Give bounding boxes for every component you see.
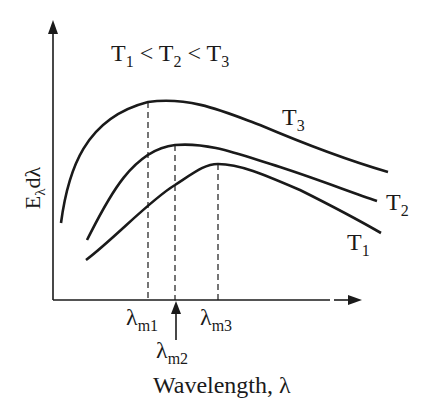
lambda-m2-arrow-icon: [171, 301, 181, 314]
x-axis-label: Wavelength, λ: [153, 372, 291, 398]
marker-lambda-m1: λm1: [126, 304, 158, 334]
x-axis-arrow-icon: [348, 295, 362, 305]
marker-lambda-m2: λm2: [156, 337, 188, 367]
y-axis-arrow-icon: [48, 20, 58, 34]
chart-title: T1 < T2 < T3: [111, 40, 229, 70]
curve-t1: [86, 164, 381, 260]
label-t1: T1: [347, 229, 370, 259]
blackbody-diagram: T1 < T2 < T3 T3 T2 T1 Eλdλ λm1 λm2 λm3 W…: [0, 0, 428, 415]
y-axis-label: Eλdλ: [20, 166, 48, 209]
marker-lambda-m3: λm3: [200, 304, 232, 334]
label-t3: T3: [282, 104, 305, 134]
curve-t2: [87, 145, 377, 240]
curve-t3: [61, 101, 388, 223]
label-t2: T2: [386, 189, 409, 219]
